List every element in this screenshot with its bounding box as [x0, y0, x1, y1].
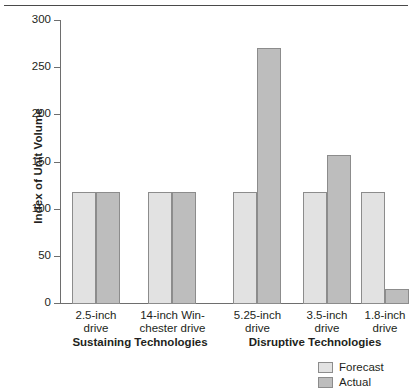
bar-forecast-1-8-inch-drive — [361, 192, 385, 304]
bar-actual-2-5-inch-drive — [96, 192, 120, 304]
group-title-sustaining-technologies: Sustaining Technologies — [40, 336, 240, 348]
legend-item-forecast: Forecast — [318, 360, 384, 374]
y-tick-label-200: 200 — [11, 108, 51, 120]
x-category-label-1-line1: 14-inch Win- — [140, 309, 205, 321]
legend-label-actual: Actual — [339, 376, 371, 388]
chart-legend: Forecast Actual — [318, 360, 384, 390]
y-tick-mark-250 — [54, 67, 61, 68]
y-tick-label-0: 0 — [11, 297, 51, 309]
bar-actual-5-25-inch-drive — [257, 48, 281, 304]
y-tick-mark-300 — [54, 20, 61, 21]
y-tick-label-300: 300 — [11, 14, 51, 26]
x-category-label-4-line2: drive — [373, 322, 398, 334]
y-tick-label-250: 250 — [11, 61, 51, 73]
x-category-label-2-line1: 5.25-inch — [234, 309, 281, 321]
x-category-label-3-line1: 3.5-inch — [307, 309, 348, 321]
bar-forecast-3-5-inch-drive — [303, 192, 327, 304]
x-category-label-1: 14-inch Win- chester drive — [125, 309, 220, 335]
y-tick-mark-0 — [54, 303, 61, 304]
bar-actual-14-inch-winchester-drive — [172, 192, 196, 304]
y-tick-mark-200 — [54, 114, 61, 115]
legend-label-forecast: Forecast — [339, 361, 384, 373]
x-category-label-0-line2: drive — [84, 322, 109, 334]
x-category-label-0-line1: 2.5-inch — [76, 309, 117, 321]
bar-actual-1-8-inch-drive — [385, 289, 409, 304]
plot-area: Index of Unit Volume 0 50 100 150 200 25… — [0, 0, 412, 391]
legend-swatch-actual-icon — [318, 377, 333, 388]
bar-forecast-14-inch-winchester-drive — [148, 192, 172, 304]
x-category-label-4-line1: 1.8-inch — [365, 309, 406, 321]
chart-figure: Index of Unit Volume 0 50 100 150 200 25… — [0, 0, 412, 391]
legend-swatch-forecast-icon — [318, 362, 333, 373]
bar-forecast-2-5-inch-drive — [72, 192, 96, 304]
y-tick-label-100: 100 — [11, 203, 51, 215]
y-tick-mark-100 — [54, 209, 61, 210]
y-tick-label-50: 50 — [11, 250, 51, 262]
x-category-label-3-line2: drive — [315, 322, 340, 334]
x-category-label-4: 1.8-inch drive — [346, 309, 412, 335]
group-title-disruptive-technologies: Disruptive Technologies — [215, 336, 412, 348]
y-tick-label-150: 150 — [11, 156, 51, 168]
x-category-label-2-line2: drive — [245, 322, 270, 334]
x-category-label-0: 2.5-inch drive — [56, 309, 136, 335]
y-tick-mark-150 — [54, 162, 61, 163]
bar-actual-3-5-inch-drive — [327, 155, 351, 304]
legend-item-actual: Actual — [318, 375, 384, 389]
bar-forecast-5-25-inch-drive — [233, 192, 257, 304]
y-tick-mark-50 — [54, 256, 61, 257]
x-category-label-1-line2: chester drive — [140, 322, 206, 334]
